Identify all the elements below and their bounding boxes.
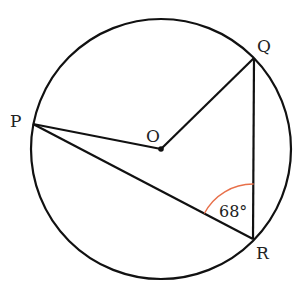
- center-dot: [158, 146, 164, 152]
- label-Q: Q: [257, 36, 271, 56]
- label-R: R: [256, 243, 270, 263]
- angle-label: 68°: [219, 202, 247, 221]
- label-O: O: [146, 126, 160, 146]
- segment-OQ: [161, 58, 254, 149]
- diagram-canvas: O P Q R 68°: [0, 0, 304, 291]
- segment-PR: [33, 124, 253, 239]
- segment-PO: [33, 124, 161, 149]
- circle-geometry-diagram: O P Q R 68°: [0, 0, 304, 291]
- segment-QR: [253, 58, 254, 239]
- label-P: P: [10, 111, 21, 131]
